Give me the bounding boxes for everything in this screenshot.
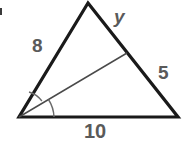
side-label-base: 10: [84, 121, 106, 141]
side-label-lower-right: 5: [158, 63, 169, 82]
geometry-figure: 8 y 5 10: [0, 0, 190, 151]
triangle-outline: [19, 3, 178, 117]
side-label-upper-right: y: [114, 7, 125, 26]
side-label-left: 8: [32, 36, 43, 55]
